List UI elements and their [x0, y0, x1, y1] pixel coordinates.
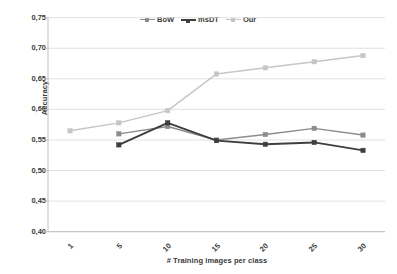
- plot-area: [0, 0, 397, 274]
- data-point-marker-msdt: [312, 140, 316, 144]
- data-point-marker-bow: [361, 133, 365, 137]
- data-point-marker-bow: [263, 132, 267, 136]
- data-point-marker-our: [117, 121, 121, 125]
- data-point-marker-our: [214, 72, 218, 76]
- data-point-marker-our: [312, 60, 316, 64]
- data-point-marker-msdt: [263, 142, 267, 146]
- data-point-marker-msdt: [117, 143, 121, 147]
- data-point-marker-msdt: [214, 138, 218, 142]
- data-point-marker-bow: [117, 132, 121, 136]
- data-point-marker-our: [68, 129, 72, 133]
- data-point-marker-our: [361, 53, 365, 57]
- accuracy-line-chart: Accuracy 0,750,700,650,600,550,500,450,4…: [0, 0, 397, 274]
- data-point-marker-msdt: [165, 121, 169, 125]
- data-point-marker-msdt: [361, 148, 365, 152]
- series-line-our: [70, 56, 363, 131]
- data-point-marker-bow: [312, 126, 316, 130]
- data-point-marker-our: [263, 66, 267, 70]
- data-point-marker-our: [165, 108, 169, 112]
